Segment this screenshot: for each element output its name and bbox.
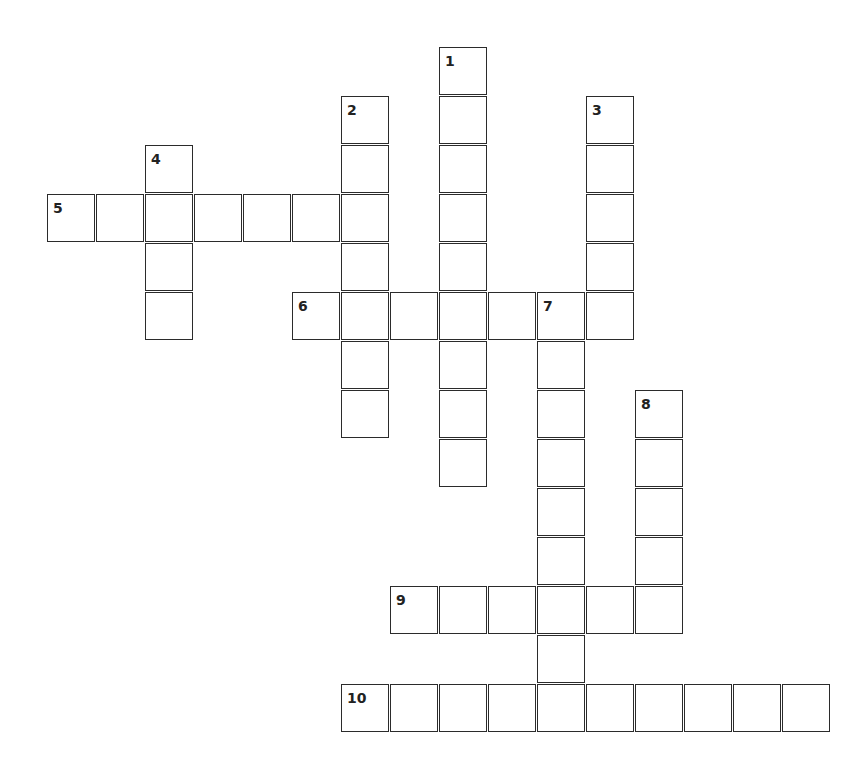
clue-number: 3 xyxy=(592,103,602,117)
crossword-cell[interactable] xyxy=(341,145,389,193)
crossword-cell[interactable] xyxy=(145,194,193,242)
crossword-cell[interactable] xyxy=(635,537,683,585)
crossword-cell[interactable] xyxy=(635,586,683,634)
crossword-cell[interactable] xyxy=(537,341,585,389)
crossword-cell[interactable] xyxy=(635,684,683,732)
crossword-cell[interactable] xyxy=(537,488,585,536)
crossword-cell[interactable] xyxy=(390,684,438,732)
crossword-cell[interactable] xyxy=(194,194,242,242)
crossword-cell[interactable] xyxy=(586,292,634,340)
crossword-cell[interactable]: 5 xyxy=(47,194,95,242)
crossword-cell[interactable] xyxy=(586,586,634,634)
crossword-cell[interactable]: 9 xyxy=(390,586,438,634)
clue-number: 10 xyxy=(347,691,366,705)
crossword-cell[interactable] xyxy=(243,194,291,242)
clue-number: 7 xyxy=(543,299,553,313)
crossword-cell[interactable] xyxy=(635,439,683,487)
crossword-cell[interactable]: 10 xyxy=(341,684,389,732)
clue-number: 4 xyxy=(151,152,161,166)
crossword-cell[interactable] xyxy=(586,145,634,193)
crossword-cell[interactable] xyxy=(341,292,389,340)
crossword-cell[interactable]: 7 xyxy=(537,292,585,340)
crossword-cell[interactable] xyxy=(390,292,438,340)
clue-number: 6 xyxy=(298,299,308,313)
crossword-cell[interactable] xyxy=(439,684,487,732)
crossword-cell[interactable] xyxy=(439,96,487,144)
crossword-cell[interactable]: 2 xyxy=(341,96,389,144)
crossword-cell[interactable] xyxy=(537,586,585,634)
crossword-cell[interactable]: 3 xyxy=(586,96,634,144)
clue-number: 1 xyxy=(445,54,455,68)
crossword-cell[interactable] xyxy=(782,684,830,732)
crossword-cell[interactable] xyxy=(439,145,487,193)
crossword-cell[interactable] xyxy=(586,684,634,732)
crossword-cell[interactable] xyxy=(145,292,193,340)
crossword-cell[interactable] xyxy=(96,194,144,242)
clue-number: 2 xyxy=(347,103,357,117)
crossword-cell[interactable]: 1 xyxy=(439,47,487,95)
crossword-cell[interactable]: 8 xyxy=(635,390,683,438)
crossword-cell[interactable] xyxy=(439,194,487,242)
crossword-cell[interactable] xyxy=(292,194,340,242)
crossword-cell[interactable] xyxy=(439,439,487,487)
crossword-cell[interactable] xyxy=(488,586,536,634)
crossword-cell[interactable] xyxy=(586,243,634,291)
clue-number: 8 xyxy=(641,397,651,411)
crossword-cell[interactable] xyxy=(635,488,683,536)
crossword-cell[interactable] xyxy=(488,292,536,340)
clue-number: 5 xyxy=(53,201,63,215)
crossword-cell[interactable] xyxy=(341,243,389,291)
crossword-cell[interactable] xyxy=(341,390,389,438)
crossword-cell[interactable]: 6 xyxy=(292,292,340,340)
crossword-cell[interactable] xyxy=(488,684,536,732)
crossword-cell[interactable] xyxy=(537,684,585,732)
clue-number: 9 xyxy=(396,593,406,607)
crossword-cell[interactable] xyxy=(537,390,585,438)
crossword-cell[interactable] xyxy=(439,341,487,389)
crossword-cell[interactable] xyxy=(684,684,732,732)
crossword-cell[interactable] xyxy=(537,635,585,683)
crossword-cell[interactable] xyxy=(341,341,389,389)
crossword-cell[interactable] xyxy=(145,243,193,291)
crossword-cell[interactable] xyxy=(439,390,487,438)
crossword-cell[interactable] xyxy=(537,439,585,487)
crossword-cell[interactable] xyxy=(341,194,389,242)
crossword-grid: 12345678910 xyxy=(0,0,853,770)
crossword-cell[interactable] xyxy=(733,684,781,732)
crossword-cell[interactable]: 4 xyxy=(145,145,193,193)
crossword-cell[interactable] xyxy=(537,537,585,585)
crossword-cell[interactable] xyxy=(439,243,487,291)
crossword-cell[interactable] xyxy=(586,194,634,242)
crossword-cell[interactable] xyxy=(439,292,487,340)
crossword-cell[interactable] xyxy=(439,586,487,634)
